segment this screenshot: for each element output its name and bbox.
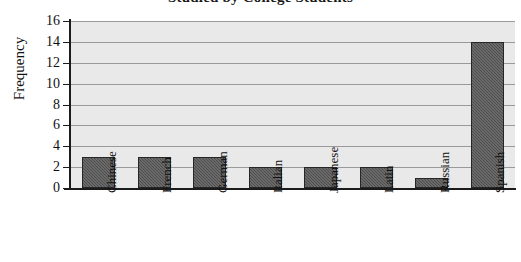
- gridline: [71, 63, 515, 64]
- y-axis-tick: [63, 146, 71, 147]
- y-axis-tick: [63, 188, 71, 189]
- y-axis-tick: [63, 21, 71, 22]
- x-axis-label-latin: Latin: [382, 103, 395, 193]
- y-axis-label: 16: [20, 14, 60, 28]
- gridline: [71, 84, 515, 85]
- chart-title: Studied by College Students: [0, 0, 521, 6]
- y-axis-label: 14: [20, 35, 60, 49]
- x-axis-label-german: German: [216, 103, 229, 193]
- gridline: [71, 42, 515, 43]
- y-axis-tick: [63, 42, 71, 43]
- y-axis-tick: [63, 84, 71, 85]
- y-axis-tick: [63, 105, 71, 106]
- x-axis-label-japanese: Japanese: [327, 103, 340, 193]
- x-axis-label-russian: Russian: [438, 103, 451, 193]
- y-axis-tick: [63, 167, 71, 168]
- y-axis-tick: [63, 125, 71, 126]
- y-axis-label: 6: [20, 118, 60, 132]
- y-axis-tick: [63, 63, 71, 64]
- x-axis-label-italian: Italian: [271, 103, 284, 193]
- y-axis-label: 0: [20, 181, 60, 195]
- y-axis-label: 12: [20, 56, 60, 70]
- y-axis-label: 8: [20, 98, 60, 112]
- x-axis-label-french: French: [160, 103, 173, 193]
- x-axis-label-spanish: Spanish: [493, 103, 506, 193]
- y-axis-label: 2: [20, 160, 60, 174]
- y-axis-label: 10: [20, 77, 60, 91]
- y-axis-label: 4: [20, 139, 60, 153]
- gridline: [71, 21, 515, 22]
- x-axis-label-chinese: Chinese: [105, 103, 118, 193]
